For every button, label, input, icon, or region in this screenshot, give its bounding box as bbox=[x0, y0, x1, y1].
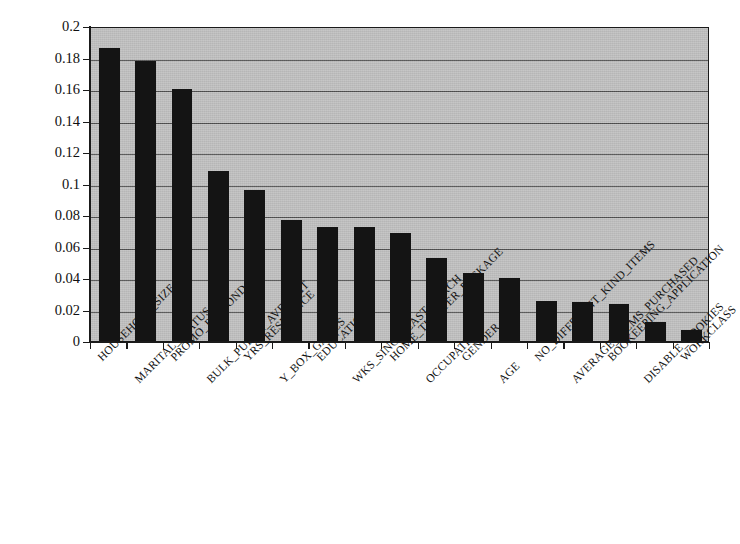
bar bbox=[609, 304, 630, 341]
y-axis-tick-label: 0.04 bbox=[0, 271, 93, 286]
x-axis-tick bbox=[90, 342, 91, 349]
y-axis-tick bbox=[83, 248, 90, 249]
y-axis-tick bbox=[83, 185, 90, 186]
x-axis-tick bbox=[709, 342, 710, 349]
bar bbox=[317, 227, 338, 341]
bar bbox=[499, 278, 520, 341]
chart-figure: 0.20.180.160.140.120.10.080.060.040.020 … bbox=[0, 0, 740, 544]
y-axis-tick-label: 0.1 bbox=[0, 177, 93, 192]
y-axis-tick bbox=[83, 216, 90, 217]
x-axis-tick bbox=[272, 342, 273, 349]
y-axis-tick-label: 0.2 bbox=[0, 19, 93, 34]
bar bbox=[99, 48, 120, 341]
y-axis-tick-label: 0.02 bbox=[0, 303, 93, 318]
y-axis-tick-label: 0.06 bbox=[0, 240, 93, 255]
y-axis-tick bbox=[83, 122, 90, 123]
bar bbox=[208, 171, 229, 341]
y-axis-tick bbox=[83, 311, 90, 312]
bar bbox=[572, 302, 593, 341]
x-axis-tick bbox=[418, 342, 419, 349]
x-axis-tick bbox=[199, 342, 200, 349]
y-axis-tick-label: 0 bbox=[0, 334, 93, 349]
bar bbox=[645, 322, 666, 341]
x-axis-category-label: AGE bbox=[497, 360, 522, 385]
x-axis-tick bbox=[527, 342, 528, 349]
bar bbox=[536, 301, 557, 341]
x-axis-tick bbox=[126, 342, 127, 349]
x-axis-tick bbox=[636, 342, 637, 349]
bar bbox=[135, 61, 156, 341]
bar bbox=[172, 89, 193, 341]
x-axis-tick bbox=[563, 342, 564, 349]
y-axis-tick-label: 0.14 bbox=[0, 114, 93, 129]
bar-series bbox=[91, 28, 708, 341]
y-axis-tick-label: 0.18 bbox=[0, 51, 93, 66]
y-axis-tick bbox=[83, 90, 90, 91]
bar bbox=[681, 330, 702, 341]
bar bbox=[426, 258, 447, 341]
y-axis-tick bbox=[83, 153, 90, 154]
y-axis-tick bbox=[83, 342, 90, 343]
y-axis-tick-label: 0.16 bbox=[0, 82, 93, 97]
y-axis-tick bbox=[83, 279, 90, 280]
bar bbox=[281, 220, 302, 341]
bar bbox=[463, 273, 484, 341]
bar bbox=[244, 190, 265, 341]
x-axis-tick bbox=[491, 342, 492, 349]
y-axis-tick bbox=[83, 27, 90, 28]
y-axis-tick-label: 0.12 bbox=[0, 145, 93, 160]
bar bbox=[390, 233, 411, 341]
bar bbox=[354, 227, 375, 341]
plot-area bbox=[90, 27, 709, 342]
x-axis-tick bbox=[345, 342, 346, 349]
y-axis-tick-label: 0.08 bbox=[0, 208, 93, 223]
y-axis-tick bbox=[83, 59, 90, 60]
